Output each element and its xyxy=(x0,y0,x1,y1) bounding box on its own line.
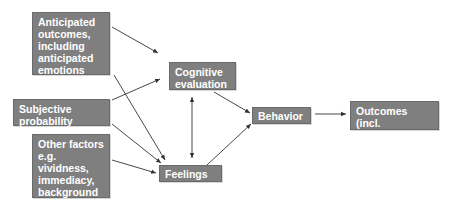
node-subjective-probability: Subjective probability xyxy=(13,99,110,126)
node-label: Cognitive evaluation xyxy=(175,66,227,90)
edge-anticipated-cognitive xyxy=(112,27,158,53)
node-anticipated-outcomes: Anticipated outcomes, including anticipa… xyxy=(32,12,110,75)
node-behavior: Behavior xyxy=(252,107,311,124)
node-feelings: Feelings xyxy=(159,165,222,182)
node-outcomes: Outcomes (incl. emotions) xyxy=(350,101,439,130)
edge-cognitive-behavior xyxy=(214,92,250,113)
node-label: Other factors e.g. vividness, immediacy,… xyxy=(38,138,104,208)
node-label: Subjective probability xyxy=(19,103,73,127)
edge-subjective-feelings xyxy=(112,124,161,163)
edge-other-feelings xyxy=(112,160,156,173)
node-label: Outcomes (incl. emotions) xyxy=(356,105,407,141)
edge-subjective-cognitive xyxy=(112,79,160,100)
node-label: Feelings xyxy=(165,168,208,180)
node-cognitive-evaluation: Cognitive evaluation xyxy=(169,62,236,90)
node-label: Behavior xyxy=(258,110,303,122)
edge-feelings-behavior xyxy=(207,124,251,165)
node-label: Anticipated outcomes, including anticipa… xyxy=(38,16,95,76)
node-other-factors: Other factors e.g. vividness, immediacy,… xyxy=(32,134,110,198)
